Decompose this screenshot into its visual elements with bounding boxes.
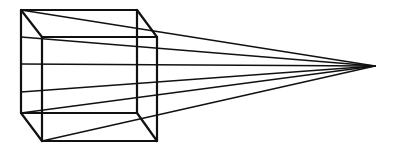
ray-3 [21, 66, 375, 92]
connector-top-left [21, 10, 42, 37]
wireframe-cube [21, 10, 157, 141]
connector-top-right [137, 10, 157, 37]
diagram-canvas [0, 0, 395, 154]
ray-2 [21, 64, 375, 66]
connector-bottom-left [21, 113, 42, 141]
converging-rays [21, 10, 375, 141]
ray-1 [21, 37, 375, 66]
perspective-diagram [0, 0, 395, 154]
